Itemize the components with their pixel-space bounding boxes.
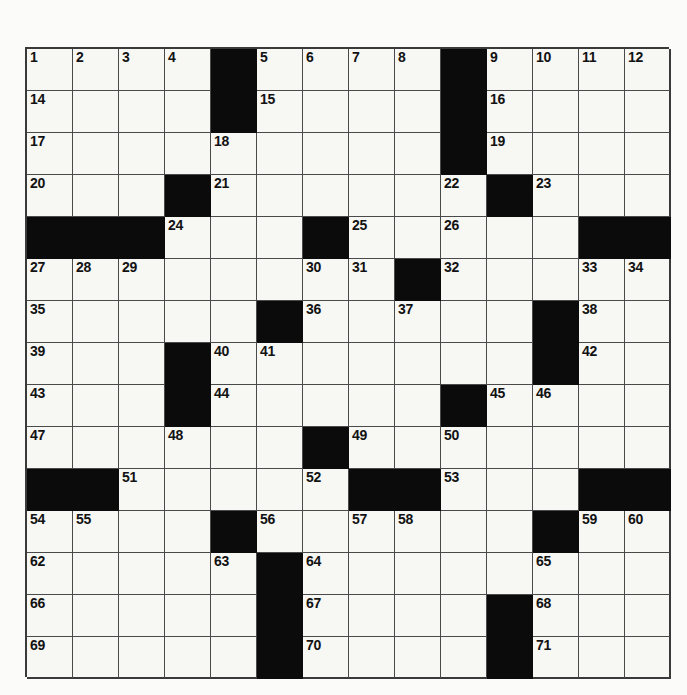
grid-open-cell[interactable] bbox=[303, 343, 349, 385]
grid-open-cell[interactable]: 60 bbox=[625, 511, 671, 553]
grid-open-cell[interactable]: 54 bbox=[27, 511, 73, 553]
grid-open-cell[interactable]: 52 bbox=[303, 469, 349, 511]
grid-open-cell[interactable] bbox=[441, 343, 487, 385]
grid-open-cell[interactable] bbox=[533, 91, 579, 133]
grid-open-cell[interactable]: 26 bbox=[441, 217, 487, 259]
grid-open-cell[interactable]: 44 bbox=[211, 385, 257, 427]
grid-open-cell[interactable]: 37 bbox=[395, 301, 441, 343]
grid-open-cell[interactable] bbox=[73, 637, 119, 679]
grid-open-cell[interactable] bbox=[395, 637, 441, 679]
grid-open-cell[interactable] bbox=[579, 595, 625, 637]
grid-open-cell[interactable] bbox=[349, 91, 395, 133]
grid-open-cell[interactable]: 56 bbox=[257, 511, 303, 553]
grid-open-cell[interactable] bbox=[441, 595, 487, 637]
grid-open-cell[interactable] bbox=[533, 217, 579, 259]
grid-open-cell[interactable]: 46 bbox=[533, 385, 579, 427]
grid-open-cell[interactable] bbox=[441, 553, 487, 595]
grid-open-cell[interactable]: 41 bbox=[257, 343, 303, 385]
grid-open-cell[interactable]: 15 bbox=[257, 91, 303, 133]
grid-open-cell[interactable]: 18 bbox=[211, 133, 257, 175]
grid-open-cell[interactable] bbox=[625, 595, 671, 637]
grid-open-cell[interactable]: 55 bbox=[73, 511, 119, 553]
grid-open-cell[interactable]: 8 bbox=[395, 49, 441, 91]
grid-open-cell[interactable] bbox=[119, 343, 165, 385]
grid-open-cell[interactable] bbox=[625, 91, 671, 133]
grid-open-cell[interactable] bbox=[73, 553, 119, 595]
grid-open-cell[interactable] bbox=[487, 511, 533, 553]
grid-open-cell[interactable] bbox=[165, 91, 211, 133]
grid-open-cell[interactable] bbox=[73, 133, 119, 175]
grid-open-cell[interactable] bbox=[625, 175, 671, 217]
grid-open-cell[interactable] bbox=[119, 637, 165, 679]
grid-open-cell[interactable] bbox=[395, 343, 441, 385]
grid-open-cell[interactable]: 66 bbox=[27, 595, 73, 637]
grid-open-cell[interactable] bbox=[165, 637, 211, 679]
grid-open-cell[interactable] bbox=[303, 511, 349, 553]
grid-open-cell[interactable] bbox=[349, 385, 395, 427]
grid-open-cell[interactable]: 1 bbox=[27, 49, 73, 91]
grid-open-cell[interactable] bbox=[257, 427, 303, 469]
grid-open-cell[interactable]: 62 bbox=[27, 553, 73, 595]
grid-open-cell[interactable]: 39 bbox=[27, 343, 73, 385]
grid-open-cell[interactable] bbox=[579, 553, 625, 595]
grid-open-cell[interactable] bbox=[625, 385, 671, 427]
grid-open-cell[interactable] bbox=[211, 217, 257, 259]
grid-open-cell[interactable] bbox=[395, 175, 441, 217]
grid-open-cell[interactable]: 64 bbox=[303, 553, 349, 595]
grid-open-cell[interactable] bbox=[395, 427, 441, 469]
grid-open-cell[interactable] bbox=[579, 91, 625, 133]
grid-open-cell[interactable] bbox=[257, 175, 303, 217]
grid-open-cell[interactable]: 12 bbox=[625, 49, 671, 91]
grid-open-cell[interactable]: 24 bbox=[165, 217, 211, 259]
grid-open-cell[interactable] bbox=[349, 637, 395, 679]
grid-open-cell[interactable]: 69 bbox=[27, 637, 73, 679]
grid-open-cell[interactable]: 23 bbox=[533, 175, 579, 217]
grid-open-cell[interactable] bbox=[487, 427, 533, 469]
grid-open-cell[interactable]: 59 bbox=[579, 511, 625, 553]
grid-open-cell[interactable]: 11 bbox=[579, 49, 625, 91]
grid-open-cell[interactable] bbox=[533, 427, 579, 469]
grid-open-cell[interactable]: 2 bbox=[73, 49, 119, 91]
grid-open-cell[interactable] bbox=[349, 175, 395, 217]
grid-open-cell[interactable] bbox=[211, 427, 257, 469]
grid-open-cell[interactable]: 32 bbox=[441, 259, 487, 301]
grid-open-cell[interactable] bbox=[303, 175, 349, 217]
grid-open-cell[interactable]: 42 bbox=[579, 343, 625, 385]
grid-open-cell[interactable] bbox=[625, 427, 671, 469]
grid-open-cell[interactable] bbox=[73, 385, 119, 427]
grid-open-cell[interactable]: 47 bbox=[27, 427, 73, 469]
grid-open-cell[interactable] bbox=[165, 511, 211, 553]
grid-open-cell[interactable] bbox=[487, 259, 533, 301]
grid-open-cell[interactable] bbox=[625, 301, 671, 343]
grid-open-cell[interactable]: 10 bbox=[533, 49, 579, 91]
grid-open-cell[interactable]: 53 bbox=[441, 469, 487, 511]
grid-open-cell[interactable] bbox=[119, 427, 165, 469]
grid-open-cell[interactable] bbox=[395, 91, 441, 133]
grid-open-cell[interactable] bbox=[349, 595, 395, 637]
grid-open-cell[interactable]: 7 bbox=[349, 49, 395, 91]
grid-open-cell[interactable]: 6 bbox=[303, 49, 349, 91]
grid-open-cell[interactable] bbox=[579, 427, 625, 469]
grid-open-cell[interactable] bbox=[441, 301, 487, 343]
grid-open-cell[interactable] bbox=[487, 553, 533, 595]
grid-open-cell[interactable] bbox=[349, 553, 395, 595]
grid-open-cell[interactable]: 28 bbox=[73, 259, 119, 301]
grid-open-cell[interactable] bbox=[73, 595, 119, 637]
grid-open-cell[interactable] bbox=[349, 343, 395, 385]
grid-open-cell[interactable]: 58 bbox=[395, 511, 441, 553]
grid-open-cell[interactable] bbox=[303, 385, 349, 427]
grid-open-cell[interactable]: 20 bbox=[27, 175, 73, 217]
grid-open-cell[interactable]: 71 bbox=[533, 637, 579, 679]
grid-open-cell[interactable] bbox=[533, 133, 579, 175]
grid-open-cell[interactable] bbox=[487, 301, 533, 343]
grid-open-cell[interactable]: 43 bbox=[27, 385, 73, 427]
grid-open-cell[interactable] bbox=[257, 385, 303, 427]
grid-open-cell[interactable] bbox=[211, 259, 257, 301]
grid-open-cell[interactable]: 50 bbox=[441, 427, 487, 469]
grid-open-cell[interactable]: 21 bbox=[211, 175, 257, 217]
grid-open-cell[interactable] bbox=[579, 175, 625, 217]
crossword-grid[interactable]: 1234567891011121415161718192021222324252… bbox=[25, 47, 669, 677]
grid-open-cell[interactable]: 33 bbox=[579, 259, 625, 301]
grid-open-cell[interactable] bbox=[119, 553, 165, 595]
grid-open-cell[interactable] bbox=[625, 343, 671, 385]
